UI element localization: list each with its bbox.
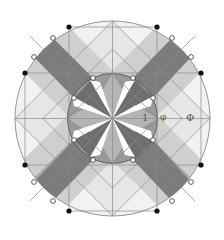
label-phi-small: φ	[160, 113, 166, 122]
label-one: 1	[142, 113, 148, 123]
construction-lines	[15, 21, 210, 216]
label-phi-large: Φ	[186, 113, 194, 123]
